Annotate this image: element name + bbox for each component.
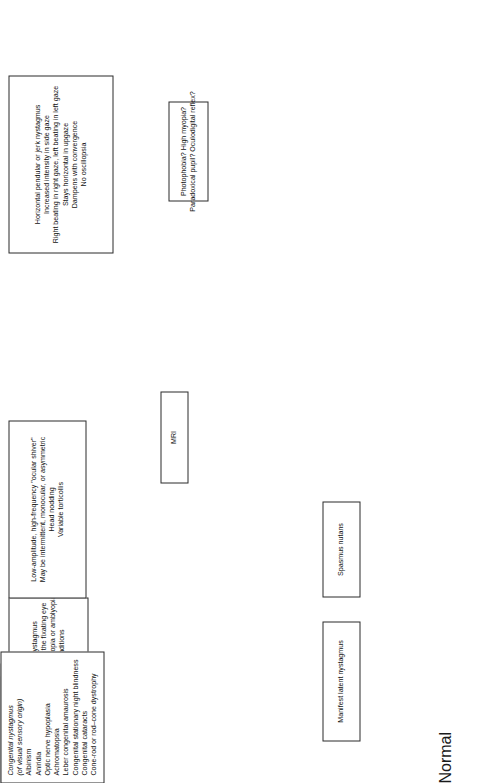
outcome-detail: Congenital stationary night blindness: [71, 659, 80, 775]
criteria-line: Head nodding: [47, 487, 56, 531]
criteria-line: No oscillopsia: [79, 142, 88, 186]
outcome-label: Manifest latent nystagmus: [336, 640, 345, 722]
criteria-line: Horizontal pendular or jerk nystagmus: [33, 104, 42, 223]
outcome-detail: Aniridia: [34, 751, 43, 775]
node-congenital-nystagmus-sensory-outcome: Congenital nystagmus (of visual sensory …: [0, 651, 104, 783]
outcome-detail: Congenital cataracts: [80, 710, 89, 775]
flowchart-stage: Low-amplitude, horizontal jerk nystagmus…: [0, 0, 492, 783]
node-congenital-nystagmus-criteria: Horizontal pendular or jerk nystagmus In…: [8, 75, 113, 253]
flowchart-canvas: Low-amplitude, horizontal jerk nystagmus…: [0, 0, 492, 783]
node-spasmus-nutans-outcome: Spasmus nutans: [322, 501, 360, 597]
node-manifest-latent-nystagmus-outcome: Manifest latent nystagmus: [322, 621, 360, 741]
outcome-label: (of visual sensory origin): [15, 698, 24, 775]
outcome-detail: Leber congenital amaurosis: [61, 688, 70, 775]
criteria-line: Variable torticollis: [56, 481, 65, 536]
connector-mri-normal-branch: [354, 0, 436, 783]
outcome-label: Congenital nystagmus: [6, 705, 15, 775]
criteria-line: May be intermittent, monocular, or asymm…: [38, 436, 47, 581]
decision-line: Paradoxical pupil? Oculodigital reflex?: [188, 91, 197, 211]
outcome-detail: Albinism: [24, 748, 33, 775]
node-spasmus-nutans-criteria: Low-amplitude, high-frequency "ocular sh…: [8, 420, 86, 598]
mri-label: MRI: [169, 431, 178, 444]
decision-line: Photophobia? High myopia?: [179, 106, 188, 195]
criteria-line: Low-amplitude, high-frequency "ocular sh…: [29, 437, 38, 581]
edge-label-normal: Normal: [436, 0, 454, 783]
outcome-label: Spasmus nutans: [336, 523, 345, 576]
outcome-detail: Achromatopsia: [52, 728, 61, 775]
node-sensory-clues-decision: Photophobia? High myopia? Paradoxical pu…: [168, 101, 208, 201]
criteria-line: Dampens with convergence: [70, 120, 79, 208]
connector-mri-abnormal-branch: [454, 0, 492, 783]
criteria-line: Increased intensity in side gaze: [42, 115, 51, 214]
connector-sn-criteria-to-mri: [234, 0, 308, 783]
outcome-detail: Optic nerve hypoplasia: [43, 703, 52, 775]
criteria-line: Stays horizontal in upgaze: [61, 122, 70, 205]
criteria-line: Right beating in right gaze, left beatin…: [51, 85, 60, 242]
node-mri-step: MRI: [160, 391, 188, 483]
outcome-detail: Cone-rod or rod–cone dystrophy: [89, 673, 98, 775]
